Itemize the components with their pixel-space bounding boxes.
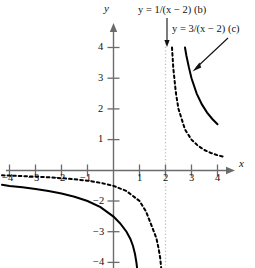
curve-solid-left-branch xyxy=(2,185,137,268)
x-tick-label-3: 3 xyxy=(189,173,194,184)
y-tick-label--2: −2 xyxy=(93,196,104,207)
plot-canvas xyxy=(0,0,255,268)
x-tick-label--2: −2 xyxy=(54,173,65,184)
y-tick-label--3: −3 xyxy=(93,227,104,238)
function-graph-figure: y x y = 1/(x − 2) (b) y = 3/(x − 2) (c) … xyxy=(0,0,255,268)
y-axis-label: y xyxy=(104,3,109,14)
x-axis-arrowhead xyxy=(226,167,235,174)
x-tick-label--3: −3 xyxy=(28,173,39,184)
x-axis-label: x xyxy=(239,158,244,169)
curve-dashed-left-branch xyxy=(2,175,161,268)
y-tick-label-3: 3 xyxy=(98,73,103,84)
curve-label-b: y = 1/(x − 2) (b) xyxy=(138,5,206,16)
y-axis-arrowhead xyxy=(110,23,117,32)
x-tick-label--4: −4 xyxy=(2,173,13,184)
x-tick-label-4: 4 xyxy=(215,173,220,184)
y-tick-label-2: 2 xyxy=(98,104,103,115)
curve-label-c: y = 3/(x − 2) (c) xyxy=(172,24,240,35)
annotation-arrow-c xyxy=(193,38,229,72)
x-tick-label--1: −1 xyxy=(80,173,91,184)
y-tick-label--4: −4 xyxy=(93,257,104,268)
y-tick-label-4: 4 xyxy=(98,42,103,53)
annotation-arrow-b xyxy=(164,18,169,47)
x-tick-label-1: 1 xyxy=(137,173,142,184)
y-tick-label-1: 1 xyxy=(98,134,103,145)
curve-solid-right-branch xyxy=(185,48,218,125)
x-tick-label-2: 2 xyxy=(163,173,168,184)
